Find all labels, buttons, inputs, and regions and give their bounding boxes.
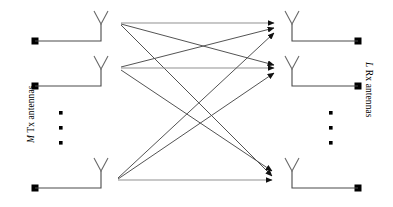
tx-antenna-group-1 [32, 11, 109, 45]
path-tx1-rx2 [121, 24, 274, 65]
path-tx2-rxl [121, 70, 272, 171]
rx-antennas-label-text: Rx antennas [364, 67, 374, 117]
rx-antennas-label: L Rx antennas [364, 62, 374, 118]
tx-antennas-label-symbol: M [26, 135, 36, 143]
mimo-channel-diagram: M Tx antennas L Rx antennas [0, 0, 393, 207]
ellipsis-dot-left-1 [59, 111, 63, 115]
rx-feedline-1 [292, 24, 358, 41]
tx-antenna-v-1 [94, 11, 108, 24]
channel-paths [118, 23, 274, 180]
rx-antenna-v-1 [285, 11, 299, 24]
vertical-ellipsis-right [329, 111, 333, 145]
tx-antenna-v-m [94, 158, 108, 171]
rx-antenna-group-2 [285, 56, 362, 90]
tx-antenna-group-2 [32, 56, 109, 90]
tx-feedline-2 [35, 69, 101, 86]
rx-antenna-v-2 [285, 56, 299, 69]
tx-feedline-m [35, 171, 101, 188]
ellipsis-dot-left-2 [59, 126, 63, 130]
tx-antenna-v-2 [94, 56, 108, 69]
diagram-canvas [0, 0, 393, 207]
rx-feedline-2 [292, 69, 358, 86]
ellipsis-dot-left-3 [59, 141, 63, 145]
rx-antenna-group-1 [285, 11, 362, 45]
rx-antenna-group-l [285, 158, 362, 192]
ellipsis-dot-right-1 [329, 111, 333, 115]
tx-antennas-label-text: Tx antennas [26, 85, 36, 135]
rx-feedline-l [292, 171, 358, 188]
vertical-ellipsis-left [59, 111, 63, 145]
tx-antenna-group-m [32, 158, 109, 192]
tx-antennas-label: M Tx antennas [26, 85, 36, 143]
tx-feedline-1 [35, 24, 101, 41]
rx-antenna-v-l [285, 158, 299, 171]
ellipsis-dot-right-3 [329, 141, 333, 145]
path-txm-rx2 [118, 73, 274, 179]
ellipsis-dot-right-2 [329, 126, 333, 130]
